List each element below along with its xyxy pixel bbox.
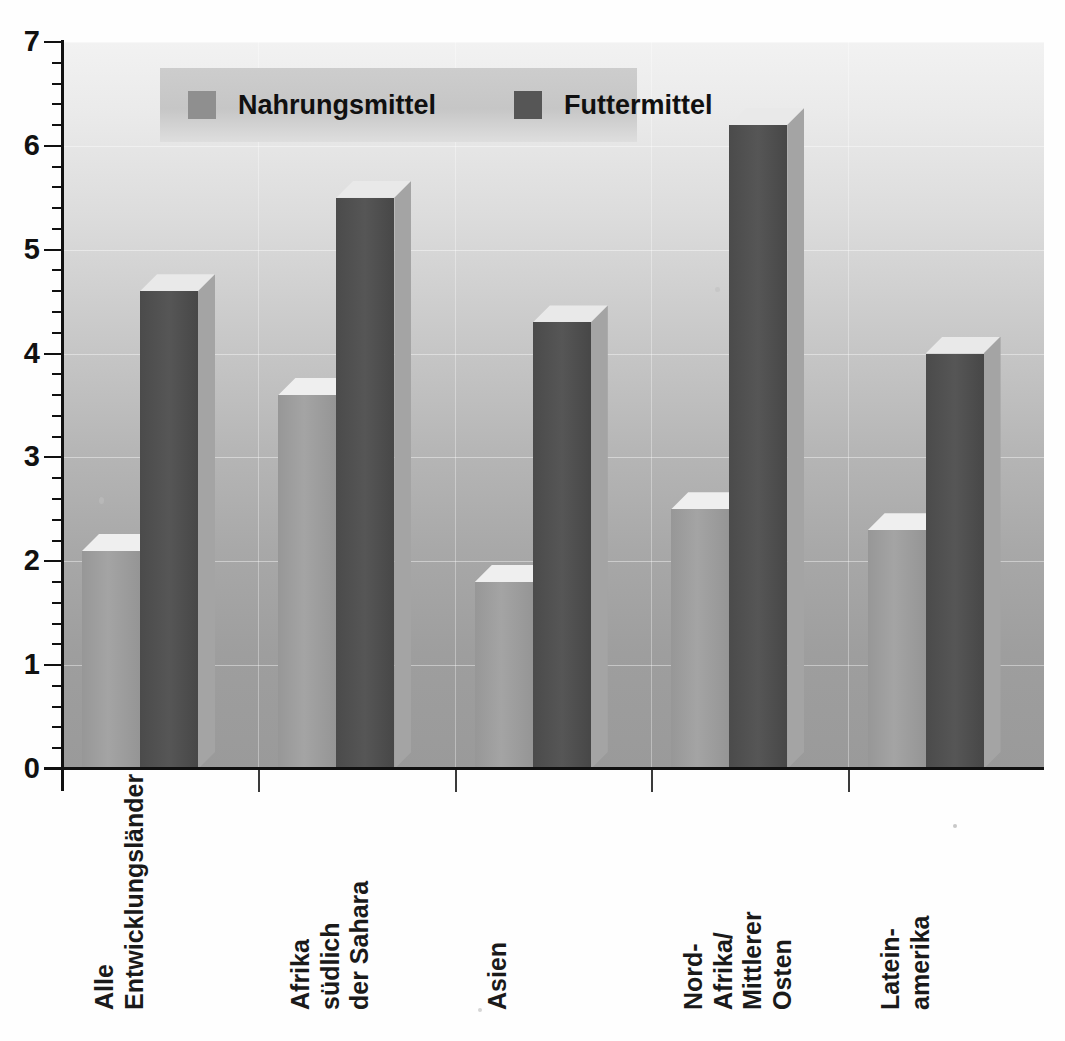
y-tick-minor: [52, 623, 62, 625]
y-tick-minor: [52, 643, 62, 645]
bar-side-face: [591, 305, 608, 769]
y-tick-minor: [52, 519, 62, 521]
bar-side-face: [984, 337, 1001, 769]
group-separator: [455, 42, 456, 769]
y-tick-major: [44, 41, 62, 43]
y-tick-minor: [52, 332, 62, 334]
x-category-label: AlleEntwicklungsländer: [90, 774, 149, 1010]
y-tick-minor: [52, 124, 62, 126]
y-tick-minor: [52, 685, 62, 687]
x-category-label: Asien: [483, 942, 513, 1010]
x-tick: [848, 770, 850, 792]
y-tick-minor: [52, 186, 62, 188]
group-separator: [258, 42, 259, 769]
y-tick-minor: [52, 394, 62, 396]
y-tick-minor: [52, 166, 62, 168]
y-tick-major: [44, 249, 62, 251]
bar-futtermittel: [926, 337, 1001, 769]
y-tick-minor: [52, 581, 62, 583]
y-tick-label: 1: [6, 650, 40, 679]
bar-front-face: [278, 395, 336, 769]
group-separator: [651, 42, 652, 769]
y-tick-label: 2: [6, 546, 40, 575]
x-category-label-line: südlich: [316, 881, 346, 1010]
gridline: [62, 250, 1044, 251]
legend-label: Nahrungsmittel: [238, 90, 436, 121]
x-category-label-line: Afrika/: [709, 911, 739, 1010]
y-tick-minor: [52, 290, 62, 292]
scan-artifact: [715, 287, 720, 292]
bar-futtermittel: [533, 305, 608, 769]
y-tick-minor: [52, 706, 62, 708]
bar-futtermittel: [140, 274, 215, 769]
x-category-label: Latein-amerika: [876, 915, 935, 1010]
bar-front-face: [475, 582, 533, 769]
y-tick-label: 3: [6, 442, 40, 471]
x-tick: [651, 770, 653, 792]
y-tick-minor: [52, 415, 62, 417]
y-tick-major: [44, 664, 62, 666]
y-tick-minor: [52, 103, 62, 105]
dark-gray-swatch: [514, 91, 542, 119]
y-tick-label: 5: [6, 235, 40, 264]
y-tick-minor: [52, 207, 62, 209]
bar-side-face: [394, 181, 411, 769]
y-axis-origin-stub: [61, 769, 64, 791]
y-tick-minor: [52, 83, 62, 85]
bar-front-face: [926, 354, 984, 769]
x-category-label-line: Mittlerer: [738, 911, 768, 1010]
y-tick-minor: [52, 726, 62, 728]
y-tick-minor: [52, 228, 62, 230]
bar-front-face: [140, 291, 198, 769]
bar-front-face: [533, 322, 591, 769]
y-tick-major: [44, 456, 62, 458]
y-tick-minor: [52, 477, 62, 479]
bar-side-face: [198, 274, 215, 769]
legend: NahrungsmittelFuttermittel: [160, 68, 637, 142]
y-tick-minor: [52, 62, 62, 64]
x-category-label-line: Latein-: [876, 915, 906, 1010]
y-tick-major: [44, 560, 62, 562]
y-tick-minor: [52, 747, 62, 749]
y-tick-label: 0: [6, 754, 40, 783]
plot-area: [62, 42, 1044, 769]
x-category-label-line: Afrika: [286, 881, 316, 1010]
chart-figure: 01234567 NahrungsmittelFuttermittel Alle…: [0, 0, 1065, 1041]
x-tick: [455, 770, 457, 792]
x-axis-line: [44, 767, 1044, 770]
bar-futtermittel: [336, 181, 411, 769]
y-tick-minor: [52, 269, 62, 271]
x-category-label-line: Nord-: [679, 911, 709, 1010]
x-category-label-line: der Sahara: [345, 881, 375, 1010]
y-tick-minor: [52, 540, 62, 542]
x-category-label-line: Entwicklungsländer: [120, 774, 150, 1010]
x-category-label-line: amerika: [905, 915, 935, 1010]
scan-artifact: [99, 497, 104, 504]
y-tick-major: [44, 768, 62, 770]
legend-label: Futtermittel: [564, 90, 713, 121]
bar-futtermittel: [729, 108, 804, 769]
y-tick-minor: [52, 373, 62, 375]
legend-entry: Nahrungsmittel: [188, 90, 436, 121]
bar-front-face: [868, 530, 926, 769]
legend-entry: Futtermittel: [514, 90, 713, 121]
group-separator: [848, 42, 849, 769]
y-axis-line: [61, 40, 64, 771]
scan-artifact: [953, 824, 957, 828]
y-tick-minor: [52, 498, 62, 500]
bar-front-face: [729, 125, 787, 769]
y-tick-major: [44, 353, 62, 355]
scan-artifact: [478, 1008, 482, 1012]
y-tick-label: 4: [6, 339, 40, 368]
y-tick-minor: [52, 311, 62, 313]
y-tick-major: [44, 145, 62, 147]
bar-front-face: [671, 509, 729, 769]
x-category-label-line: Osten: [768, 911, 798, 1010]
x-category-label-line: Asien: [483, 942, 513, 1010]
x-tick: [258, 770, 260, 792]
x-category-label-line: Alle: [90, 774, 120, 1010]
bar-front-face: [336, 198, 394, 769]
gridline: [62, 146, 1044, 147]
y-tick-minor: [52, 436, 62, 438]
y-tick-label: 7: [6, 27, 40, 56]
